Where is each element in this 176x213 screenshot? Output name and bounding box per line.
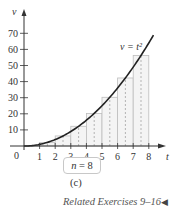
n-label-box: n = 8 (63, 157, 101, 174)
x-tick-label: 8 (146, 151, 151, 162)
x-axis-label: t (166, 151, 169, 162)
y-tick-label: 60 (8, 44, 18, 55)
x-axis-arrow-icon (158, 144, 166, 149)
left-arrow-icon: ◀ (161, 197, 168, 207)
related-exercises-text: Related Exercises 9–16 (63, 196, 161, 207)
y-axis-arrow-icon (22, 9, 27, 16)
riemann-rectangles (24, 55, 149, 146)
x-tick-label: 6 (115, 151, 120, 162)
y-tick-label: 10 (8, 124, 18, 135)
related-exercises-footer: Related Exercises 9–16◀ (63, 196, 168, 207)
x-tick-label: 7 (131, 151, 136, 162)
y-tick-label: 20 (8, 108, 18, 119)
origin-label: 0 (14, 150, 19, 161)
y-tick-label: 40 (8, 76, 18, 87)
x-tick-label: 1 (37, 151, 42, 162)
curve-label: v = t² (120, 41, 143, 52)
y-tick-label: 30 (8, 92, 18, 103)
y-tick-label: 50 (8, 60, 18, 71)
x-tick-label: 2 (53, 151, 58, 162)
y-tick-label: 70 (8, 28, 18, 39)
figure-caption: (c) (70, 177, 82, 188)
y-ticks: 10203040506070 (8, 28, 28, 136)
y-axis-label: v (12, 6, 17, 17)
n-value: = 8 (76, 160, 92, 171)
riemann-sum-chart: 10203040506070 12345678 v t 0 v = t² (0, 0, 176, 213)
